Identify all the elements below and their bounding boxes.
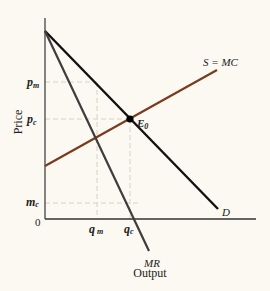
origin-label: 0 [35,216,41,228]
equilibrium-point [126,115,133,122]
pc-tick-label: pc [26,112,37,127]
x-axis-title: Output [133,266,167,280]
supply-label: S = MC [203,56,239,68]
qc-tick-label: qc [124,222,134,236]
demand-label: D [221,206,230,218]
guide-lines [45,82,140,219]
y-axis-title: Price [11,110,25,135]
economics-diagram: S = MC D MR E0 pm pc mc 0 qm qc Price Ou… [0,0,270,291]
mc-tick-label: mc [26,195,39,209]
equilibrium-label: E0 [136,117,148,131]
pm-tick-label: pm [26,75,39,90]
qm-tick-label: qm [89,222,103,236]
